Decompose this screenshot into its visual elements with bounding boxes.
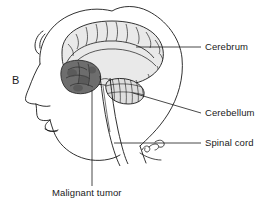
anatomy-illustration xyxy=(0,0,259,205)
label-spinal-cord: Spinal cord xyxy=(205,138,254,148)
label-malignant-tumor: Malignant tumor xyxy=(52,188,122,198)
label-cerebrum: Cerebrum xyxy=(205,42,248,52)
leader-cerebellum xyxy=(133,93,201,113)
panel-label-b: B xyxy=(12,74,19,86)
label-cerebellum: Cerebellum xyxy=(205,108,255,118)
malignant-tumor-mass xyxy=(61,60,101,93)
figure-panel-b: B Cerebrum Cerebellum Spinal cord Malign… xyxy=(0,0,259,205)
